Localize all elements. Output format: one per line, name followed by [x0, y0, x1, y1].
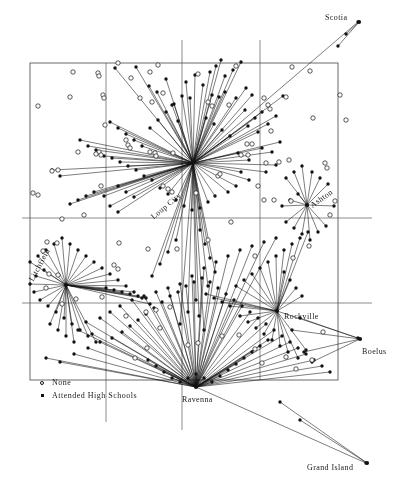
none-point — [256, 184, 260, 188]
attended-point — [98, 340, 101, 343]
spoke-litchfield-22 — [66, 285, 88, 336]
attended-point — [242, 278, 245, 281]
attended-point — [288, 278, 291, 281]
attended-point — [336, 44, 339, 47]
legend-label-attended: Attended High Schools — [48, 392, 137, 400]
attended-point — [128, 324, 131, 327]
spoke-litchfield-11 — [66, 280, 118, 285]
attended-point — [118, 160, 121, 163]
none-point — [154, 308, 158, 312]
none-point — [311, 116, 315, 120]
spoke-boelus-2 — [304, 339, 360, 352]
attended-point — [274, 254, 277, 257]
none-point — [234, 64, 238, 68]
attended-point — [239, 60, 242, 63]
attended-point — [134, 168, 137, 171]
attended-point — [184, 284, 187, 287]
attended-point — [70, 322, 73, 325]
attended-point — [262, 332, 265, 335]
spoke-litchfield-31 — [66, 285, 74, 342]
none-point — [194, 191, 198, 195]
attended-point — [258, 266, 261, 269]
attended-point — [164, 77, 167, 80]
none-point — [210, 104, 214, 108]
attended-point — [160, 300, 163, 303]
attendance-map: None Attended High Schools Loup CityRave… — [0, 0, 394, 479]
attended-point — [238, 248, 241, 251]
spoke-grand_island-1 — [300, 420, 367, 463]
attended-point — [274, 163, 277, 166]
hub-point-loup-city — [191, 161, 195, 165]
attended-point — [154, 290, 157, 293]
attended-point — [132, 290, 135, 293]
attended-point — [174, 238, 177, 241]
attended-point — [48, 322, 51, 325]
attended-point — [132, 195, 135, 198]
none-point — [328, 213, 332, 217]
attended-point — [234, 284, 237, 287]
none-point — [161, 184, 165, 188]
attended-point — [288, 340, 291, 343]
attended-point — [176, 290, 179, 293]
none-point — [206, 100, 210, 104]
attended-point — [150, 178, 153, 181]
none-point — [44, 286, 48, 290]
attended-point — [228, 134, 231, 137]
none-point — [186, 343, 190, 347]
attended-point — [172, 102, 175, 105]
attended-point — [116, 278, 119, 281]
attended-point — [176, 119, 179, 122]
attended-point — [220, 300, 223, 303]
attended-point — [284, 220, 287, 223]
none-point — [237, 333, 241, 337]
none-point — [262, 96, 266, 100]
attended-point — [128, 292, 131, 295]
none-point — [148, 70, 152, 74]
none-point — [124, 314, 128, 318]
spoke-boelus-0 — [300, 318, 360, 339]
none-point — [133, 356, 137, 360]
attended-point — [231, 68, 234, 71]
none-point — [325, 166, 329, 170]
none-point — [308, 69, 312, 73]
spoke-rockville-7 — [277, 244, 292, 311]
none-point — [116, 61, 120, 65]
attended-point — [86, 346, 89, 349]
attended-point — [256, 316, 259, 319]
none-point — [36, 104, 40, 108]
attended-point — [270, 150, 273, 153]
attended-point — [300, 232, 303, 235]
attended-point — [58, 360, 61, 363]
none-point — [100, 295, 104, 299]
attended-point — [201, 83, 204, 86]
none-point — [146, 247, 150, 251]
attended-point — [136, 294, 139, 297]
attended-point — [197, 314, 200, 317]
none-point — [253, 254, 257, 258]
attended-point — [246, 124, 249, 127]
attended-point — [208, 256, 211, 259]
none-point — [294, 367, 298, 371]
spoke-ashton-9 — [307, 205, 310, 240]
legend-item-none: None — [36, 376, 137, 389]
attended-point — [246, 320, 249, 323]
attended-point — [239, 170, 242, 173]
attended-point — [68, 242, 71, 245]
attended-point — [154, 364, 157, 367]
none-point — [154, 154, 158, 158]
attended-point — [280, 334, 283, 337]
none-point — [323, 161, 327, 165]
spoke-ashton-11 — [307, 205, 326, 226]
none-point — [150, 100, 154, 104]
attended-point — [134, 65, 137, 68]
attended-point — [266, 122, 269, 125]
attended-point — [58, 174, 61, 177]
attended-point — [320, 364, 323, 367]
spoke-loup_city-80 — [174, 104, 193, 163]
none-point — [68, 95, 72, 99]
city-label-grand-island: Grand Island — [307, 464, 353, 472]
none-point — [124, 138, 128, 142]
none-point — [103, 123, 107, 127]
attended-point — [168, 294, 171, 297]
none-point — [287, 158, 291, 162]
